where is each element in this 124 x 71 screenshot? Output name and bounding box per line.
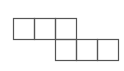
grid-square-3 (56, 19, 77, 40)
grid-square-5 (77, 40, 98, 61)
grid-square-6 (98, 40, 119, 61)
grid-square-1 (14, 19, 35, 40)
grid-square-2 (35, 19, 56, 40)
square-net-diagram (0, 0, 124, 71)
grid-square-4 (56, 40, 77, 61)
